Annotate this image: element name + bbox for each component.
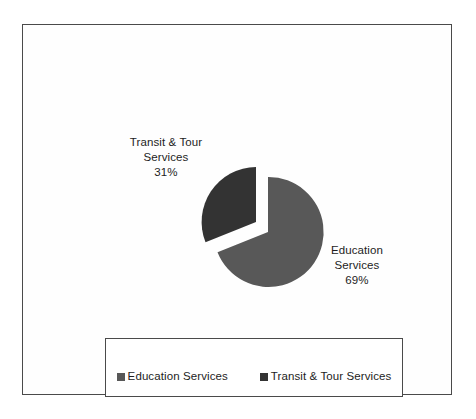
legend-row: Education Services Transit & Tour Servic… (106, 339, 402, 396)
legend-swatch-icon-education-services (117, 373, 125, 381)
data-label-education-line2: Services (311, 258, 403, 273)
legend-swatch-icon-transit-and-tour-services (260, 373, 268, 381)
data-label-education-services: Education Services 69% (311, 243, 403, 288)
chart-container: Transit & Tour Services 31% Education Se… (0, 0, 476, 419)
data-label-transit-and-tour-services: Transit & Tour Services 31% (111, 135, 221, 180)
legend-label-education-services: Education Services (128, 370, 228, 383)
chart-legend: Education Services Transit & Tour Servic… (105, 338, 403, 397)
data-label-education-line1: Education (311, 243, 403, 258)
legend-label-transit-and-tour-services: Transit & Tour Services (271, 370, 392, 383)
data-label-transit-percent: 31% (111, 165, 221, 180)
data-label-transit-line2: Services (111, 150, 221, 165)
legend-item-transit-and-tour-services[interactable]: Transit & Tour Services (260, 370, 392, 383)
legend-item-education-services[interactable]: Education Services (117, 370, 228, 383)
chart-plot-frame: Transit & Tour Services 31% Education Se… (22, 24, 452, 395)
data-label-transit-line1: Transit & Tour (111, 135, 221, 150)
data-label-education-percent: 69% (311, 273, 403, 288)
